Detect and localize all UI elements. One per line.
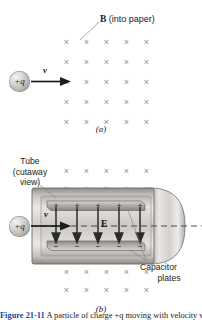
tube-assembly	[0, 140, 202, 320]
plate-sign-positive: +	[136, 202, 145, 210]
efield-label: E	[101, 219, 107, 229]
figure-caption-label: Figure	[0, 311, 24, 320]
plate-sign-negative: −	[136, 243, 145, 251]
plate-sign-positive: +	[52, 202, 61, 210]
figure-caption-number: 21-11	[26, 311, 45, 320]
velocity-arrow-a	[0, 0, 202, 140]
figure-caption-text: A particle of charge +q moving with velo…	[46, 311, 202, 320]
charge-sphere-b: +q	[9, 216, 30, 237]
figure-21-11: B (into paper) ×××××××××××××××××××××××××…	[0, 0, 202, 320]
charge-label-b: +q	[9, 216, 30, 237]
panel-b: Tube (cutaway view) Capacitor plates ×××…	[0, 140, 202, 320]
panel-a-label: (a)	[0, 124, 202, 134]
plate-sign-positive: +	[73, 202, 82, 210]
plate-sign-negative: −	[52, 243, 61, 251]
plate-sign-negative: −	[94, 243, 103, 251]
plate-sign-positive: +	[115, 202, 124, 210]
plate-sign-positive: +	[94, 202, 103, 210]
velocity-label-b: v	[44, 209, 48, 219]
plate-sign-negative: −	[115, 243, 124, 251]
plate-sign-negative: −	[73, 243, 82, 251]
figure-caption: Figure 21-11 A particle of charge +q mov…	[0, 311, 202, 320]
panel-a: B (into paper) ×××××××××××××××××××××××××…	[0, 0, 202, 140]
